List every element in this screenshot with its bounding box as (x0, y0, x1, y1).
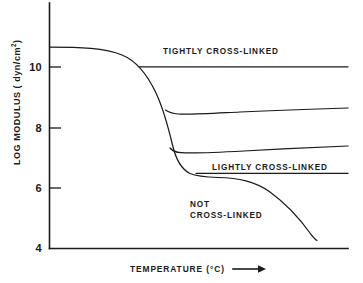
y-tick-label-8: 8 (36, 122, 42, 134)
x-axis-title: TEMPERATURE (°C) (130, 264, 225, 274)
chart-background (0, 0, 363, 283)
annotation-lightly-cross-linked: LIGHTLY CROSS-LINKED (212, 163, 328, 172)
annotation-tightly-cross-linked: TIGHTLY CROSS-LINKED (163, 47, 279, 56)
y-axis-title-main: LOG MODULUS ( dyn/cm (12, 47, 22, 165)
annotation-not-cross-linked-line2: CROSS-LINKED (190, 211, 263, 220)
y-tick-label-4: 4 (36, 242, 43, 254)
svg-text:LOG MODULUS ( dyn/cm2): LOG MODULUS ( dyn/cm2) (10, 39, 22, 165)
annotation-not-cross-linked-line1: NOT (190, 200, 210, 209)
y-tick-label-6: 6 (36, 182, 42, 194)
modulus-temperature-chart: 10 8 6 4 TIGHTLY CROSS-LINKED LIGHTLY CR… (0, 0, 363, 283)
y-axis-title-close: ) (12, 39, 22, 43)
y-tick-label-10: 10 (29, 61, 42, 73)
y-axis-title: LOG MODULUS ( dyn/cm2) (10, 39, 22, 165)
chart-figure: 10 8 6 4 TIGHTLY CROSS-LINKED LIGHTLY CR… (0, 0, 363, 283)
